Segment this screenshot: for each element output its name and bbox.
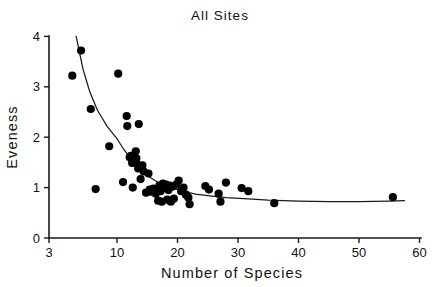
data-points-group <box>68 46 397 208</box>
y-tick-label: 2 <box>33 130 40 145</box>
data-point <box>123 122 131 130</box>
chart-title: All Sites <box>191 8 249 23</box>
x-axis-group: 3102030405060 Number of Species <box>45 238 426 281</box>
data-point <box>270 199 278 207</box>
y-axis-ticks: 01234 <box>33 29 49 246</box>
data-point <box>135 120 143 128</box>
data-point <box>389 193 397 201</box>
x-tick-label: 50 <box>352 245 366 260</box>
data-point <box>123 112 131 120</box>
x-axis-ticks: 3102030405060 <box>45 238 426 260</box>
y-axis-group: 01234 Eveness <box>4 29 49 246</box>
chart-container: All Sites 01234 Eveness 3102030405060 Nu… <box>0 0 441 287</box>
data-point <box>136 175 144 183</box>
data-point <box>77 46 85 54</box>
data-point <box>222 178 230 186</box>
y-tick-label: 1 <box>33 180 40 195</box>
y-axis-title: Eveness <box>4 105 20 168</box>
scatter-plot-svg: All Sites 01234 Eveness 3102030405060 Nu… <box>0 0 441 287</box>
x-tick-label: 60 <box>412 245 426 260</box>
x-tick-label: 10 <box>110 245 124 260</box>
data-point <box>144 169 152 177</box>
data-point <box>105 142 113 150</box>
chart-title-group: All Sites <box>191 8 249 23</box>
x-tick-label: 3 <box>45 245 52 260</box>
data-point <box>87 105 95 113</box>
data-point <box>244 187 252 195</box>
data-point <box>215 190 223 198</box>
data-point <box>186 200 194 208</box>
x-tick-label: 20 <box>170 245 184 260</box>
x-tick-label: 30 <box>231 245 245 260</box>
data-point <box>132 147 140 155</box>
data-point <box>179 184 187 192</box>
data-point <box>119 178 127 186</box>
data-point <box>92 185 100 193</box>
data-point <box>216 198 224 206</box>
data-point <box>170 195 178 203</box>
data-point <box>129 184 137 192</box>
x-axis-title: Number of Species <box>161 265 303 281</box>
data-point <box>114 70 122 78</box>
data-point <box>68 72 76 80</box>
y-tick-label: 3 <box>33 79 40 94</box>
y-tick-label: 0 <box>33 231 40 246</box>
data-point <box>205 186 213 194</box>
y-tick-label: 4 <box>33 29 40 44</box>
data-point <box>175 176 183 184</box>
x-tick-label: 40 <box>291 245 305 260</box>
